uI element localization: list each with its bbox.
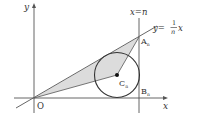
center-point-C [115,73,119,77]
slanted-line-label-denominator: n [171,28,175,36]
slanted-line-label-lhs: y= [152,23,165,33]
point-B-label: Bn [141,87,150,97]
x-axis-label: x [163,101,168,111]
x-axis-arrow-icon [163,96,168,100]
line-y-equals-x-over-n [16,26,157,108]
y-axis-arrow-icon [32,3,36,8]
slanted-line-label-variable: x [178,23,183,33]
point-C-label: Cn [119,79,128,89]
geometry-diagram: y x O x=n y= 1 n x An Bn Cn [0,0,198,123]
y-axis-label: y [23,2,30,12]
origin-label: O [37,101,44,111]
vertical-line-label: x=n [130,7,147,17]
slanted-line-label-numerator: 1 [172,19,176,27]
point-A-label: An [140,37,150,47]
